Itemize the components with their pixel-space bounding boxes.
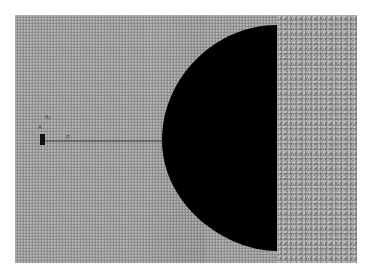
label-p: P xyxy=(66,134,70,140)
label-theta: θ₀ xyxy=(45,114,51,120)
label-a: A xyxy=(38,124,42,130)
crack-tip-marker xyxy=(40,134,45,145)
semicircular-inclusion xyxy=(162,25,277,251)
geometry-overlay xyxy=(0,0,372,275)
